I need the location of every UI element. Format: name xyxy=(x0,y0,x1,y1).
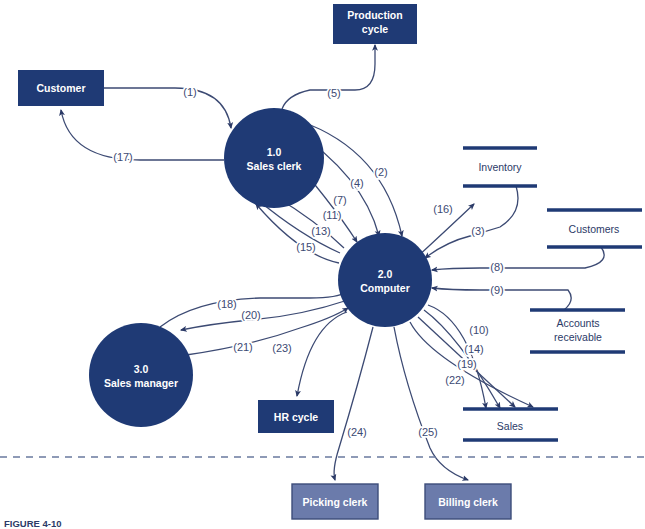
flow-label-16: (16) xyxy=(433,203,453,215)
data-store-customers[interactable]: Customers xyxy=(547,210,642,247)
entity-label-production-cycle-line1: Production xyxy=(347,9,402,21)
flow-label-14: (14) xyxy=(464,343,484,355)
flow-path-5 xyxy=(282,45,375,109)
flow-label-3: (3) xyxy=(471,225,484,237)
flow-path-23 xyxy=(297,312,347,396)
process-sales-clerk[interactable]: 1.0 Sales clerk xyxy=(224,108,324,208)
process-circle xyxy=(338,233,432,327)
flow-label-20: (20) xyxy=(241,309,261,321)
flow-label-13: (13) xyxy=(311,225,331,237)
process-number-sales-clerk: 1.0 xyxy=(267,146,282,158)
process-name-computer: Computer xyxy=(360,282,410,294)
process-number-computer: 2.0 xyxy=(378,268,393,280)
flow-label-24: (24) xyxy=(347,426,367,438)
flow-label-21: (21) xyxy=(233,341,253,353)
flow-path-20 xyxy=(181,300,348,330)
flow-path-8 xyxy=(432,247,604,270)
entity-picking-clerk[interactable]: Picking clerk xyxy=(292,484,378,519)
process-name-sales-clerk: Sales clerk xyxy=(247,160,302,172)
flow-label-5: (5) xyxy=(327,87,340,99)
data-store-inventory[interactable]: Inventory xyxy=(463,148,537,186)
flow-label-9: (9) xyxy=(490,284,503,296)
flow-path-3 xyxy=(425,186,518,258)
process-sales-manager[interactable]: 3.0 Sales manager xyxy=(89,323,193,427)
flow-path-17 xyxy=(61,110,224,160)
process-name-sales-manager: Sales manager xyxy=(104,377,178,389)
entity-label-picking-clerk: Picking clerk xyxy=(303,496,368,508)
store-label-customers: Customers xyxy=(569,223,620,235)
external-entity-group: Customer Production cycle HR cycle Picki… xyxy=(18,4,511,519)
store-label-accounts-receivable-line1: Accounts xyxy=(556,317,599,329)
flow-label-7: (7) xyxy=(333,194,346,206)
flow-label-2: (2) xyxy=(374,166,387,178)
entity-production-cycle[interactable]: Production cycle xyxy=(333,4,417,44)
dfd-canvas: Inventory Customers Accounts receivable … xyxy=(0,0,645,529)
flow-label-23: (23) xyxy=(272,342,292,354)
process-number-sales-manager: 3.0 xyxy=(134,363,149,375)
dfd-svg: Inventory Customers Accounts receivable … xyxy=(0,0,645,529)
process-group: 1.0 Sales clerk 2.0 Computer 3.0 Sales m… xyxy=(89,108,432,427)
entity-billing-clerk[interactable]: Billing clerk xyxy=(425,484,511,519)
entity-label-billing-clerk: Billing clerk xyxy=(438,496,498,508)
entity-label-customer: Customer xyxy=(36,82,85,94)
entity-label-hr-cycle: HR cycle xyxy=(274,411,319,423)
flow-label-22: (22) xyxy=(445,374,465,386)
entity-label-production-cycle-line2: cycle xyxy=(362,23,388,35)
flow-label-19: (19) xyxy=(457,358,477,370)
flow-label-11: (11) xyxy=(323,209,342,221)
process-computer[interactable]: 2.0 Computer xyxy=(338,233,432,327)
flow-label-17: (17) xyxy=(113,151,133,163)
flow-label-18: (18) xyxy=(217,298,237,310)
process-circle xyxy=(89,323,193,427)
store-label-inventory: Inventory xyxy=(478,161,522,173)
entity-hr-cycle[interactable]: HR cycle xyxy=(258,400,334,433)
entity-customer[interactable]: Customer xyxy=(18,70,104,106)
store-label-accounts-receivable-line2: receivable xyxy=(554,331,602,343)
data-store-sales[interactable]: Sales xyxy=(463,409,558,440)
flow-path-21 xyxy=(186,308,348,355)
data-store-accounts-receivable[interactable]: Accounts receivable xyxy=(530,310,625,352)
flow-label-15: (15) xyxy=(296,241,316,253)
process-circle xyxy=(224,108,324,208)
flow-label-10: (10) xyxy=(469,324,489,336)
flow-path-1 xyxy=(104,88,231,128)
flow-label-1: (1) xyxy=(183,86,196,98)
store-label-sales: Sales xyxy=(497,420,523,432)
flow-label-8: (8) xyxy=(490,261,503,273)
flow-label-4: (4) xyxy=(350,177,363,189)
flow-label-25: (25) xyxy=(418,426,438,438)
figure-caption: FIGURE 4-10 xyxy=(4,518,62,529)
